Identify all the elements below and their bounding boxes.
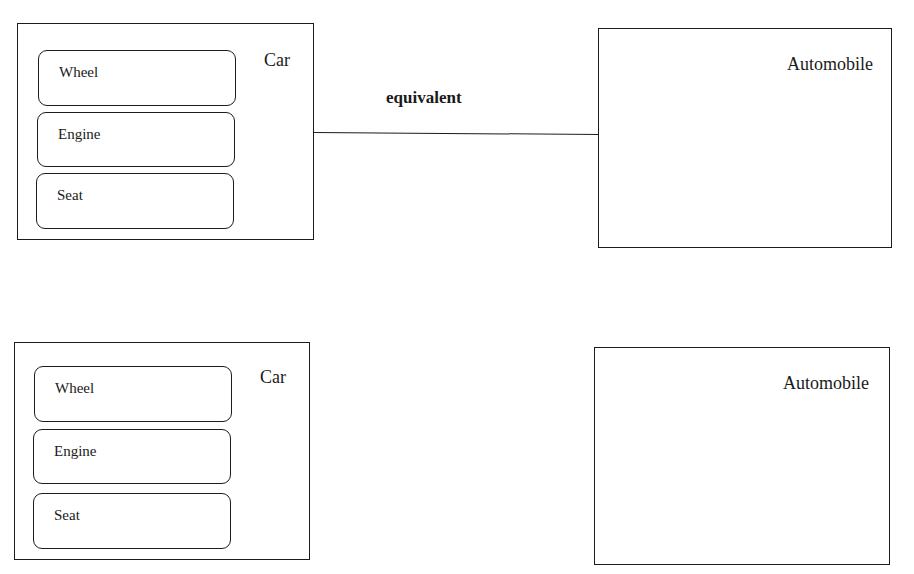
equivalent-connector: [313, 132, 600, 135]
part-seat: Seat: [36, 173, 234, 229]
automobile-title: Automobile: [783, 373, 869, 394]
car-title: Car: [260, 367, 286, 388]
relation-label: equivalent: [386, 88, 462, 108]
automobile-entity-top: Automobile: [598, 28, 892, 248]
part-engine: Engine: [33, 429, 231, 484]
part-wheel: Wheel: [38, 50, 236, 106]
part-seat: Seat: [33, 493, 231, 549]
car-title: Car: [264, 50, 290, 71]
part-engine: Engine: [37, 112, 235, 167]
automobile-title: Automobile: [787, 54, 873, 75]
automobile-entity-bottom: Automobile: [594, 347, 890, 565]
part-wheel: Wheel: [34, 366, 232, 422]
